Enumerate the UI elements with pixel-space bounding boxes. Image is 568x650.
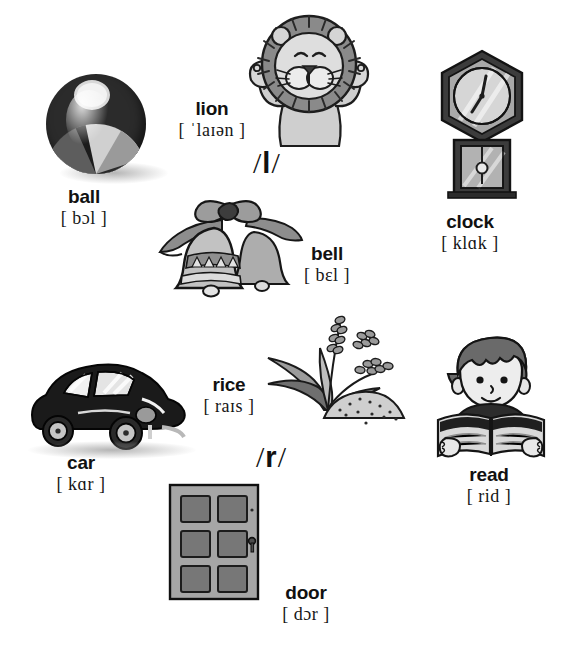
label-ipa-ball: [ bɔl ]	[4, 208, 164, 229]
label-ipa-read: [ rid ]	[409, 486, 568, 507]
label-word-lion: lion	[132, 98, 292, 120]
label-word-clock: clock	[390, 211, 550, 233]
label-ipa-clock: [ klɑk ]	[390, 233, 550, 254]
phoneme-l-marker: /l/	[253, 146, 281, 180]
reading-boy-graphic	[432, 334, 550, 460]
phoneme-r-letter: r	[265, 441, 277, 473]
reading-boy-illustration	[432, 334, 550, 460]
phoneme-r-slash-close: /	[278, 440, 287, 473]
clock-graphic	[434, 48, 530, 200]
phoneme-l-slash-close: /	[271, 146, 280, 179]
label-ipa-rice: [ raɪs ]	[149, 396, 309, 417]
phoneme-l-slash-open: /	[253, 146, 262, 179]
phoneme-r-slash-open: /	[256, 440, 265, 473]
label-word-ball: ball	[4, 186, 164, 208]
label-word-bell: bell	[247, 243, 407, 265]
label-word-rice: rice	[149, 374, 309, 396]
label-ipa-door: [ dɔr ]	[226, 604, 386, 625]
label-word-car: car	[1, 452, 161, 474]
phonics-worksheet-page: ball [ bɔl ]	[0, 0, 568, 650]
phoneme-r-marker: /r/	[256, 440, 287, 474]
label-ipa-bell: [ bɛl ]	[247, 265, 407, 286]
label-ipa-car: [ kɑr ]	[1, 474, 161, 495]
label-word-read: read	[409, 464, 568, 486]
wall-clock-illustration	[434, 48, 530, 200]
label-ipa-lion: [ ˈlaɪən ]	[132, 120, 292, 141]
label-word-door: door	[226, 582, 386, 604]
